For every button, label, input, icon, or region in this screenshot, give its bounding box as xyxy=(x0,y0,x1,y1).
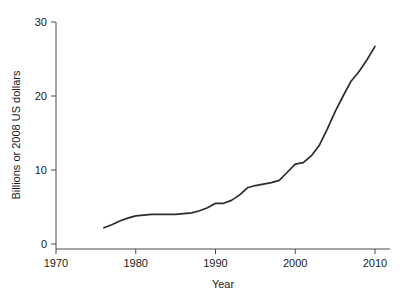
line-chart: 0102030 19701980199020002010 Year Billio… xyxy=(0,0,407,296)
data-series-line xyxy=(104,46,375,227)
x-tick-label: 1980 xyxy=(124,257,148,269)
y-axis-title: Billions or 2008 US dollars xyxy=(10,70,22,200)
y-tick-label: 10 xyxy=(35,164,47,176)
y-axis-ticks: 0102030 xyxy=(35,16,56,250)
x-tick-label: 1970 xyxy=(44,257,68,269)
y-tick-label: 20 xyxy=(35,90,47,102)
chart-container: 0102030 19701980199020002010 Year Billio… xyxy=(0,0,407,296)
x-tick-label: 2000 xyxy=(283,257,307,269)
x-axis-title: Year xyxy=(212,278,235,290)
y-tick-label: 30 xyxy=(35,16,47,28)
y-tick-label: 0 xyxy=(41,238,47,250)
x-tick-label: 2010 xyxy=(363,257,387,269)
x-tick-label: 1990 xyxy=(203,257,227,269)
x-axis-ticks: 19701980199020002010 xyxy=(44,249,387,269)
